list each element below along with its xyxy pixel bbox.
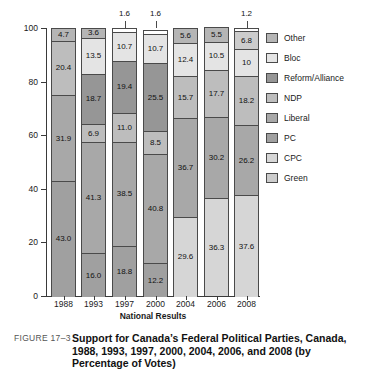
segment-2004-liberal[interactable]: 36.7 bbox=[174, 119, 197, 217]
bar-2006[interactable]: 5.510.517.730.236.3 bbox=[204, 27, 229, 296]
segment-2000-reform-alliance[interactable]: 25.5 bbox=[144, 64, 167, 132]
segment-2008-green[interactable]: 6.8 bbox=[235, 32, 258, 50]
segment-value-label: 8.5 bbox=[150, 139, 161, 147]
legend-item-bloc[interactable]: Bloc bbox=[266, 48, 370, 68]
segment-2000-liberal[interactable]: 40.8 bbox=[144, 155, 167, 264]
legend-item-other[interactable]: Other bbox=[266, 28, 370, 48]
y-tick-label: 40 bbox=[12, 185, 38, 194]
segment-2000-pc[interactable]: 12.2 bbox=[144, 264, 167, 297]
bar-1997[interactable]: 1.610.719.411.038.518.8 bbox=[112, 28, 137, 296]
segment-value-label: 12.2 bbox=[148, 277, 164, 285]
segment-value-label: 10.5 bbox=[209, 52, 225, 60]
legend-label-cpc: CPC bbox=[284, 154, 302, 163]
legend-item-ndp[interactable]: NDP bbox=[266, 88, 370, 108]
segment-2004-ndp[interactable]: 15.7 bbox=[174, 77, 197, 119]
segment-value-label: 36.3 bbox=[209, 244, 225, 252]
y-tick-label: 100 bbox=[12, 24, 38, 33]
legend-item-reform-alliance[interactable]: Reform/Alliance bbox=[266, 68, 370, 88]
y-tick-mark bbox=[41, 296, 46, 297]
segment-value-label: 19.4 bbox=[117, 83, 133, 91]
segment-value-label: 3.6 bbox=[88, 29, 99, 37]
segment-value-label: 12.4 bbox=[178, 56, 194, 64]
segment-value-label: 36.7 bbox=[178, 164, 194, 172]
figure-number: FIGURE 17–3 bbox=[0, 332, 72, 345]
figure-page: 020406080100 4.720.431.943.03.613.518.76… bbox=[0, 0, 373, 390]
bar-2008[interactable]: 1.26.81018.226.237.6 bbox=[234, 28, 259, 296]
legend-label-green: Green bbox=[284, 174, 308, 183]
segment-1997-liberal[interactable]: 38.5 bbox=[113, 143, 136, 246]
segment-2008-ndp[interactable]: 18.2 bbox=[235, 77, 258, 126]
segment-1988-ndp[interactable]: 20.4 bbox=[52, 42, 75, 97]
segment-value-label: 26.2 bbox=[239, 157, 255, 165]
callout-leader-line bbox=[247, 21, 248, 28]
legend-label-liberal: Liberal bbox=[284, 114, 310, 123]
segment-value-label: 20.4 bbox=[56, 64, 72, 72]
segment-2006-other[interactable]: 5.5 bbox=[205, 28, 228, 43]
segment-1997-ndp[interactable]: 11.0 bbox=[113, 114, 136, 143]
y-tick-label: 20 bbox=[12, 238, 38, 247]
legend-item-pc[interactable]: PC bbox=[266, 128, 370, 148]
legend-swatch-other bbox=[266, 33, 278, 43]
segment-2006-ndp[interactable]: 17.7 bbox=[205, 71, 228, 118]
segment-1993-liberal[interactable]: 41.3 bbox=[82, 143, 105, 254]
segment-2006-liberal[interactable]: 30.2 bbox=[205, 118, 228, 199]
segment-value-label: 4.7 bbox=[58, 31, 69, 39]
segment-value-label: 37.6 bbox=[239, 243, 255, 251]
legend-swatch-cpc bbox=[266, 153, 278, 163]
segment-value-label: 11.0 bbox=[117, 124, 132, 132]
segment-2000-bloc[interactable]: 10.7 bbox=[144, 35, 167, 64]
bar-2000[interactable]: 1.610.725.58.540.812.2 bbox=[143, 30, 168, 296]
segment-2008-bloc[interactable]: 10 bbox=[235, 50, 258, 77]
segment-value-label: 15.7 bbox=[178, 94, 194, 102]
segment-1997-reform-alliance[interactable]: 19.4 bbox=[113, 62, 136, 114]
legend-label-pc: PC bbox=[284, 134, 296, 143]
segment-2006-bloc[interactable]: 10.5 bbox=[205, 43, 228, 71]
segment-2008-cpc[interactable]: 37.6 bbox=[235, 196, 258, 297]
bar-1993[interactable]: 3.613.518.76.941.316.0 bbox=[81, 28, 106, 296]
segment-1993-reform-alliance[interactable]: 18.7 bbox=[82, 75, 105, 125]
segment-value-label: 5.5 bbox=[211, 31, 222, 39]
segment-2004-other[interactable]: 5.6 bbox=[174, 29, 197, 44]
segment-value-label: 29.6 bbox=[178, 253, 194, 261]
bar-1988[interactable]: 4.720.431.943.0 bbox=[51, 28, 76, 296]
segment-value-label: 18.7 bbox=[86, 95, 102, 103]
callout-label-2008: 1.2 bbox=[233, 10, 261, 18]
y-tick-label: 60 bbox=[12, 131, 38, 140]
bar-2004[interactable]: 5.612.415.736.729.6 bbox=[173, 28, 198, 296]
segment-1993-bloc[interactable]: 13.5 bbox=[82, 39, 105, 75]
figure-caption: FIGURE 17–3 Support for Canada’s Federal… bbox=[0, 332, 373, 370]
segment-2004-bloc[interactable]: 12.4 bbox=[174, 44, 197, 77]
segment-value-label: 10 bbox=[242, 59, 251, 67]
segment-1988-other[interactable]: 4.7 bbox=[52, 29, 75, 42]
segment-2004-cpc[interactable]: 29.6 bbox=[174, 218, 197, 297]
legend-item-green[interactable]: Green bbox=[266, 168, 370, 188]
legend-swatch-pc bbox=[266, 133, 278, 143]
segment-1993-ndp[interactable]: 6.9 bbox=[82, 125, 105, 143]
segment-1997-bloc[interactable]: 10.7 bbox=[113, 33, 136, 62]
legend-item-cpc[interactable]: CPC bbox=[266, 148, 370, 168]
segment-value-label: 25.5 bbox=[148, 94, 164, 102]
segment-1993-pc[interactable]: 16.0 bbox=[82, 254, 105, 297]
segment-1993-other[interactable]: 3.6 bbox=[82, 29, 105, 39]
segment-2008-liberal[interactable]: 26.2 bbox=[235, 126, 258, 196]
legend-swatch-bloc bbox=[266, 53, 278, 63]
segment-value-label: 40.8 bbox=[148, 205, 164, 213]
segment-1988-liberal[interactable]: 31.9 bbox=[52, 96, 75, 181]
segment-value-label: 18.2 bbox=[239, 97, 255, 105]
x-axis-title: National Results bbox=[46, 312, 260, 321]
segment-1988-pc[interactable]: 43.0 bbox=[52, 182, 75, 297]
segment-value-label: 6.8 bbox=[241, 37, 252, 45]
segment-value-label: 43.0 bbox=[56, 235, 72, 243]
segment-2000-ndp[interactable]: 8.5 bbox=[144, 132, 167, 155]
segment-value-label: 31.9 bbox=[56, 135, 72, 143]
x-tick-label-2008: 2008 bbox=[225, 300, 269, 309]
segment-value-label: 30.2 bbox=[209, 154, 225, 162]
callout-leader-line bbox=[156, 21, 157, 28]
legend-item-liberal[interactable]: Liberal bbox=[266, 108, 370, 128]
segment-value-label: 10.7 bbox=[117, 43, 133, 51]
legend-swatch-ndp bbox=[266, 93, 278, 103]
legend-label-bloc: Bloc bbox=[284, 54, 301, 63]
segment-2006-cpc[interactable]: 36.3 bbox=[205, 199, 228, 296]
y-tick-label: 80 bbox=[12, 78, 38, 87]
segment-1997-pc[interactable]: 18.8 bbox=[113, 247, 136, 297]
